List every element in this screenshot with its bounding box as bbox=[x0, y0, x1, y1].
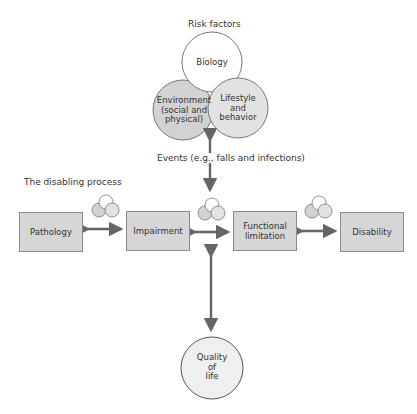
lifestyle-label: Lifestyle and behavior bbox=[213, 94, 263, 123]
functional-limitation-box: Functional limitation bbox=[233, 211, 297, 251]
disability-box: Disability bbox=[340, 212, 404, 252]
mini-venn-2 bbox=[198, 198, 225, 220]
events-label: Events (e.g., falls and infections) bbox=[156, 153, 306, 163]
mini-venn-1 bbox=[92, 195, 119, 217]
disabling-process-diagram: Risk factors Biology Environment (social… bbox=[0, 0, 417, 414]
biology-label: Biology bbox=[182, 58, 242, 68]
environment-label: Environment (social and physical) bbox=[153, 96, 215, 125]
mini-venn-3 bbox=[305, 196, 332, 218]
impairment-box: Impairment bbox=[126, 211, 190, 251]
quality-of-life-label: Quality of life bbox=[187, 353, 237, 382]
pathology-box: Pathology bbox=[19, 212, 83, 252]
process-title: The disabling process bbox=[24, 177, 122, 187]
risk-factors-title: Risk factors bbox=[188, 19, 241, 29]
